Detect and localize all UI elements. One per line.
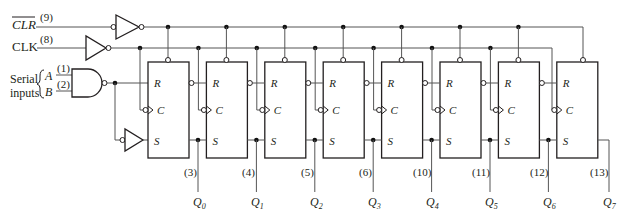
svg-text:C: C	[157, 104, 165, 116]
shift-register-diagram: CLR (9) CLK (8) Serial inputs A B (1) (2…	[0, 0, 622, 216]
clr-pin: (9)	[40, 11, 53, 24]
output-labels: (3) (4) (5) (6) (10) (11) (12) (13) Q0 Q…	[184, 166, 617, 211]
svg-text:S: S	[271, 135, 277, 147]
svg-text:R: R	[211, 77, 219, 89]
clk-inverter-icon	[86, 36, 106, 60]
svg-text:(4): (4)	[242, 166, 255, 179]
svg-text:C: C	[332, 104, 340, 116]
svg-text:R: R	[153, 77, 161, 89]
svg-text:(13): (13)	[590, 166, 609, 179]
svg-text:C: C	[274, 104, 282, 116]
svg-text:R: R	[387, 77, 395, 89]
svg-text:C: C	[215, 104, 223, 116]
svg-text:(3): (3)	[184, 166, 197, 179]
input-a-label: A	[44, 69, 53, 83]
clr-input-bubble	[111, 25, 116, 30]
flip-flop-2: R C S	[255, 25, 306, 158]
flip-flop-5: R C S	[430, 25, 481, 158]
input-b-label: B	[45, 85, 53, 99]
svg-text:S: S	[504, 135, 510, 147]
svg-text:R: R	[562, 77, 570, 89]
svg-text:C: C	[391, 104, 399, 116]
clk-pin: (8)	[40, 33, 53, 46]
clk-label: CLK	[12, 39, 39, 54]
flip-flop-7: R C S	[552, 58, 598, 159]
svg-text:S: S	[388, 135, 394, 147]
svg-text:(6): (6)	[359, 166, 372, 179]
svg-text:R: R	[270, 77, 278, 89]
q7-label: Q7	[603, 195, 617, 211]
clr-inverter-icon	[116, 15, 139, 39]
svg-text:C: C	[566, 104, 574, 116]
svg-text:C: C	[507, 104, 515, 116]
serial-inputs: Serial inputs A B (1) (2)	[10, 62, 107, 100]
serial-label-line2: inputs	[10, 86, 40, 100]
svg-text:S: S	[212, 135, 218, 147]
flip-flop-1: R C S	[196, 25, 247, 158]
q1-label: Q1	[251, 195, 264, 211]
svg-text:R: R	[328, 77, 336, 89]
svg-text:(10): (10)	[413, 166, 432, 179]
flip-flop-4: R C S	[371, 25, 422, 158]
q0-label: Q0	[193, 195, 206, 211]
q5-label: Q5	[485, 195, 498, 211]
serial-inverter-icon	[125, 129, 143, 151]
nand-gate-icon	[72, 69, 102, 97]
clr-input: CLR (9)	[12, 11, 144, 39]
q4-label: Q4	[426, 195, 439, 211]
flip-flop-0: R C S	[138, 25, 189, 158]
flip-flop-6: R C S	[488, 25, 539, 158]
clk-input: CLK (8)	[12, 33, 111, 60]
input-b-pin: (2)	[57, 78, 70, 91]
svg-text:S: S	[154, 135, 160, 147]
svg-text:(12): (12)	[530, 166, 549, 179]
svg-text:S: S	[563, 135, 569, 147]
svg-text:S: S	[446, 135, 452, 147]
svg-text:R: R	[445, 77, 453, 89]
svg-text:C: C	[449, 104, 457, 116]
svg-text:R: R	[503, 77, 511, 89]
clr-label: CLR	[12, 17, 36, 32]
svg-text:(11): (11)	[472, 166, 490, 179]
svg-text:(5): (5)	[301, 166, 314, 179]
q6-label: Q6	[543, 195, 556, 211]
q2-label: Q2	[310, 195, 323, 211]
q3-label: Q3	[368, 195, 381, 211]
svg-text:S: S	[329, 135, 335, 147]
flip-flop-3: R C S	[313, 25, 364, 158]
input-a-pin: (1)	[57, 62, 70, 75]
serial-label-line1: Serial	[10, 72, 39, 86]
